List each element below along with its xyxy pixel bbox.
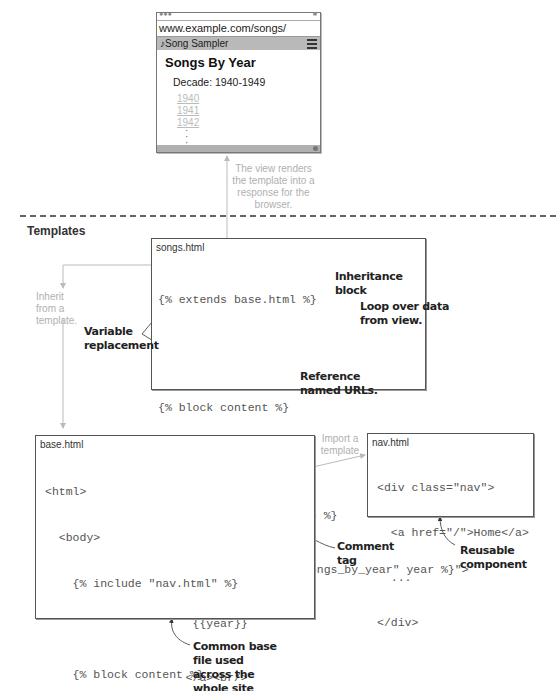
address-bar[interactable]: www.example.com/songs/ — [157, 21, 320, 37]
decade-label: Decade: 1940-1949 — [173, 76, 265, 88]
code-line: {% block content %} — [158, 399, 469, 417]
code-line: ... — [377, 570, 529, 585]
code-line: <a href="/">Home</a> — [377, 525, 529, 540]
window-close-icon[interactable]: ■ — [313, 10, 317, 17]
year-link[interactable]: 1940 — [177, 93, 199, 104]
app-bar: ♪Song Sampler — [157, 37, 320, 50]
callout-loop: Loop over data from view. — [360, 300, 460, 328]
section-label-templates: Templates — [27, 224, 85, 238]
callout-reference-urls: Reference named URLs. — [300, 370, 380, 398]
browser-mockup: ●●● ■ www.example.com/songs/ ♪Song Sampl… — [156, 12, 321, 153]
code-line — [158, 345, 469, 363]
window-dots-icon: ●●● — [159, 10, 172, 17]
callout-variable-replacement: Variable replacement — [84, 325, 146, 353]
callout-common-base: Common base file used across the whole s… — [193, 640, 285, 691]
code-line: <div class="nav"> — [377, 480, 529, 495]
page-heading: Songs By Year — [165, 55, 256, 70]
hamburger-menu-icon[interactable] — [307, 39, 317, 51]
browser-footer — [157, 145, 320, 152]
code-line: </div> — [377, 615, 529, 630]
code-line: <html> — [45, 484, 314, 499]
import-note: Import a template — [315, 433, 365, 457]
code-line: {% include "nav.html" %} — [45, 576, 314, 591]
callout-reusable-component: Reusable component — [460, 544, 540, 572]
footer-dot-icon — [313, 146, 318, 151]
songs-filename: songs.html — [156, 242, 204, 253]
inherit-note: Inherit from a template. — [36, 291, 86, 327]
callout-inheritance-block: Inheritance block — [335, 270, 415, 298]
code-line: <body> — [45, 530, 314, 545]
nav-template-box: nav.html <div class="nav"> <a href="/">H… — [367, 433, 534, 517]
base-template-box: base.html <html> <body> {% include "nav.… — [35, 435, 315, 619]
code-line — [45, 621, 314, 636]
callout-comment-tag: Comment tag — [337, 540, 392, 568]
view-renders-note: The view renders the template into a res… — [231, 163, 316, 211]
nav-filename: nav.html — [372, 437, 409, 448]
app-title: Song Sampler — [165, 38, 228, 49]
year-link[interactable]: 1941 — [177, 105, 199, 116]
browser-titlebar: ●●● ■ — [157, 13, 320, 21]
base-filename: base.html — [40, 439, 83, 450]
